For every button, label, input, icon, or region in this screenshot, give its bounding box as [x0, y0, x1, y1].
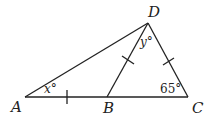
angle-label-y: y° [139, 35, 153, 49]
angle-label-x: x° [44, 82, 57, 96]
triangle-diagram: D A B C x° y° 65° [0, 0, 210, 114]
tick-mark-BD [122, 56, 134, 64]
point-label-D: D [147, 3, 160, 21]
point-label-A: A [9, 98, 22, 114]
point-label-B: B [102, 99, 114, 114]
angle-label-C: 65° [160, 82, 181, 96]
point-label-C: C [192, 99, 204, 114]
tick-mark-DC [163, 58, 174, 65]
